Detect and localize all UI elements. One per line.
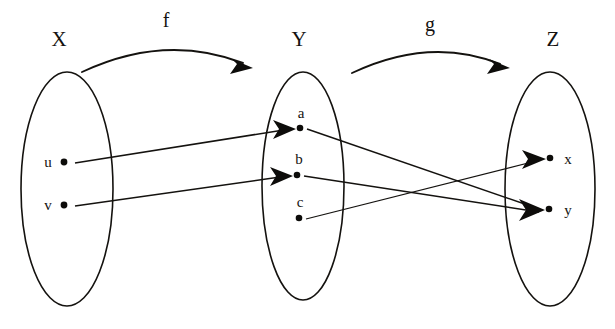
element-label-v: v: [44, 197, 52, 213]
set-label-Y: Y: [291, 27, 306, 51]
set-ellipse-X: [21, 72, 113, 306]
mapping-line-v-to-b: [75, 176, 287, 206]
element-dot-u: [61, 159, 68, 166]
element-labels: u v a b c x y: [44, 105, 572, 218]
element-dot-c: [296, 215, 303, 222]
function-arc-f-arrowhead: [230, 59, 253, 74]
diagram-canvas: X Y Z f g: [0, 0, 615, 329]
mapping-line-b-to-y: [304, 176, 539, 212]
set-boundaries: [21, 72, 595, 306]
function-arc-g: [352, 52, 500, 73]
set-label-Z: Z: [547, 27, 560, 51]
element-dots: [61, 125, 554, 222]
element-label-b: b: [295, 151, 303, 167]
set-ellipse-Z: [505, 72, 595, 306]
element-label-y: y: [564, 202, 572, 218]
mapping-lines-f: [75, 129, 290, 206]
element-dot-v: [61, 202, 68, 209]
function-arcs: [82, 50, 510, 74]
element-dot-y: [546, 206, 553, 213]
arrowhead-into-x: [522, 150, 546, 169]
mapping-arrowheads: [270, 120, 546, 221]
arrowhead-into-a: [273, 120, 296, 139]
element-label-u: u: [44, 154, 52, 170]
set-labels: X Y Z: [51, 27, 559, 51]
function-composition-diagram: X Y Z f g: [0, 0, 615, 329]
element-dot-b: [294, 172, 301, 179]
element-dot-x: [547, 155, 554, 162]
set-label-X: X: [51, 27, 66, 51]
element-label-x: x: [564, 151, 572, 167]
arrowhead-into-b: [270, 167, 293, 186]
function-arc-f: [82, 50, 243, 72]
function-label-f: f: [163, 9, 170, 31]
element-label-c: c: [297, 194, 304, 210]
element-label-a: a: [298, 105, 305, 121]
function-label-g: g: [425, 13, 435, 36]
element-dot-a: [297, 125, 304, 132]
